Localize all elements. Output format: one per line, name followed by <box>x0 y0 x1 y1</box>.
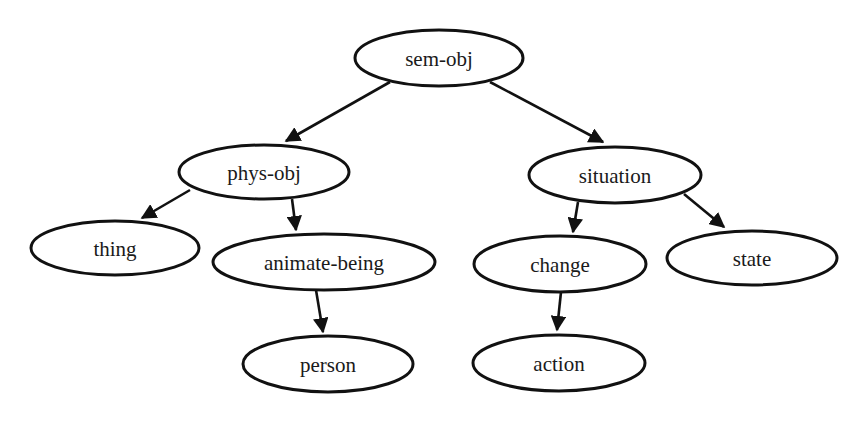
node-label: change <box>530 253 589 277</box>
edge-animate-being-to-person <box>316 290 323 332</box>
node-situation: situation <box>529 147 701 203</box>
node-animate-being: animate-being <box>213 234 435 290</box>
edge-sem-obj-to-situation <box>490 82 603 142</box>
edge-phys-obj-to-animate-being <box>292 199 296 230</box>
edge-situation-to-change <box>573 202 578 232</box>
node-label: situation <box>579 164 652 188</box>
edge-change-to-action <box>557 292 561 330</box>
node-sem-obj: sem-obj <box>355 30 523 86</box>
edge-sem-obj-to-phys-obj <box>286 82 390 141</box>
node-person: person <box>243 336 413 392</box>
edge-situation-to-state <box>684 194 724 227</box>
tree-diagram: sem-objphys-objsituationthinganimate-bei… <box>0 0 855 430</box>
diagram-canvas: sem-objphys-objsituationthinganimate-bei… <box>0 0 855 430</box>
node-label: sem-obj <box>405 47 473 71</box>
node-state: state <box>667 231 837 285</box>
node-label: thing <box>93 237 137 261</box>
edge-phys-obj-to-thing <box>142 190 190 218</box>
node-label: state <box>733 247 771 271</box>
edges-layer <box>142 82 724 332</box>
node-change: change <box>474 236 646 292</box>
node-thing: thing <box>31 221 199 275</box>
node-label: action <box>533 352 585 376</box>
node-phys-obj: phys-obj <box>179 145 349 199</box>
node-label: phys-obj <box>227 161 301 185</box>
node-label: animate-being <box>264 251 385 275</box>
node-label: person <box>300 353 356 377</box>
node-action: action <box>473 335 645 391</box>
